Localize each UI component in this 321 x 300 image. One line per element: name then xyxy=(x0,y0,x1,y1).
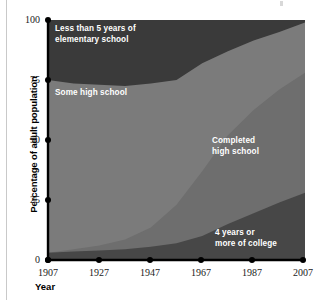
stacked-area-chart-figure: Percentage of adult population 100 75 50… xyxy=(0,0,321,300)
y-tick-dot-100 xyxy=(45,17,51,23)
chart-canvas xyxy=(0,0,321,300)
x-tick-label-1927: 1927 xyxy=(79,267,119,278)
x-tick-dot-1907 xyxy=(45,257,51,263)
y-tick-label-50: 50 xyxy=(14,134,40,145)
x-tick-label-1907: 1907 xyxy=(28,267,68,278)
x-axis-title: Year xyxy=(35,281,55,292)
x-tick-label-1947: 1947 xyxy=(130,267,170,278)
x-tick-dot-1947 xyxy=(147,257,153,263)
y-tick-label-75: 75 xyxy=(14,74,40,85)
x-tick-dot-1987 xyxy=(249,257,255,263)
y-tick-dot-75 xyxy=(45,77,51,83)
x-tick-dot-1967 xyxy=(198,257,204,263)
x-tick-label-2007: 2007 xyxy=(283,267,321,278)
plot-area xyxy=(48,20,305,260)
x-tick-label-1987: 1987 xyxy=(232,267,272,278)
page-corner-mark xyxy=(280,1,283,6)
y-tick-dot-25 xyxy=(45,197,51,203)
x-tick-label-1967: 1967 xyxy=(181,267,221,278)
y-tick-label-0: 0 xyxy=(14,254,40,265)
y-tick-dot-50 xyxy=(45,137,51,143)
y-tick-label-100: 100 xyxy=(14,14,40,25)
x-tick-dot-1927 xyxy=(96,257,102,263)
y-tick-label-25: 25 xyxy=(14,194,40,205)
x-tick-dot-2007 xyxy=(300,257,306,263)
